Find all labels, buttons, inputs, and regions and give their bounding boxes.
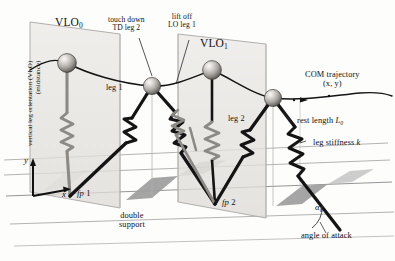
leg-2-label: leg 2	[228, 115, 245, 124]
leg-1-label: leg 1	[106, 84, 123, 93]
mass-td-lo	[143, 77, 160, 94]
vlo-0-label: VLO0	[55, 16, 83, 30]
mass-vlo0	[58, 54, 77, 73]
rest-length-subscript: 0	[340, 120, 343, 126]
com-trajectory-line1: COM trajectory	[305, 70, 360, 79]
rest-length-text: rest length	[297, 116, 335, 125]
vlo-0-subscript: 0	[79, 21, 83, 30]
fp2-number: 2	[231, 197, 235, 207]
vlo-axis-label-line1: vertical leg orientation (VLO)	[26, 61, 34, 146]
double-support-line2: support	[119, 220, 145, 229]
com-trajectory-label: COM trajectory (x, y)	[305, 70, 360, 88]
walking-model-svg	[0, 0, 395, 261]
footprint-2-label: fp 2	[222, 198, 236, 207]
vlo-axis-label-line2: (midstance)	[34, 61, 42, 146]
mass-vlo1	[203, 61, 222, 80]
vlo-1-subscript: 1	[224, 42, 228, 51]
fp1-p: p	[80, 188, 84, 198]
vlo-0-text: VLO	[55, 16, 79, 28]
touchdown-line2: TD leg 2	[108, 24, 145, 32]
alpha-subscript: 0	[320, 207, 323, 213]
leg-stiffness-text: leg stiffness	[313, 138, 357, 147]
double-support-line1: double	[119, 211, 145, 220]
fp1-number: 1	[86, 188, 90, 198]
rest-length-label: rest length L0	[297, 116, 343, 126]
liftoff-callout: lift off LO leg 1	[168, 13, 196, 29]
alpha-label: α0	[315, 203, 323, 213]
footprint-1-label: fp 1	[77, 189, 91, 198]
fp2-p: p	[225, 197, 229, 207]
double-support-label: double support	[119, 211, 145, 229]
vlo-axis-label: vertical leg orientation (VLO) (midstanc…	[26, 61, 42, 146]
leg-stiffness-label: leg stiffness k	[313, 138, 360, 147]
com-trajectory-line2: (x, y)	[305, 79, 360, 88]
vlo-plane-0	[30, 22, 120, 208]
axis-x-label: x	[62, 190, 66, 199]
angle-of-attack-label: angle of attack	[301, 231, 352, 240]
touchdown-callout: touch down TD leg 2	[108, 16, 145, 32]
vlo-1-label: VLO1	[200, 37, 228, 51]
axis-y-label: y	[24, 156, 28, 165]
liftoff-line2: LO leg 1	[168, 21, 196, 29]
mass-td2	[264, 89, 281, 106]
figure-canvas: vertical leg orientation (VLO) (midstanc…	[0, 0, 395, 261]
vlo-1-text: VLO	[200, 37, 224, 49]
leg-stiffness-symbol: k	[357, 138, 361, 147]
